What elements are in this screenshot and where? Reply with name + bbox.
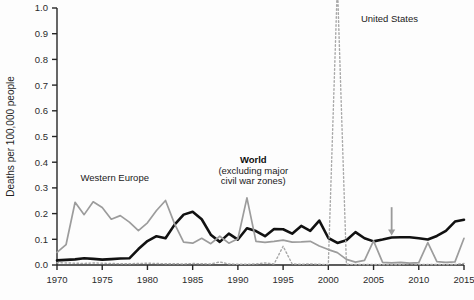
x-axis-tick-label: 2000 (318, 274, 339, 285)
western-europe-label: Western Europe (81, 172, 149, 183)
x-axis-tick-label: 2015 (453, 274, 474, 285)
deaths-per-100k-line-chart: 0.00.10.20.30.40.50.60.70.80.91.0 197019… (0, 0, 474, 300)
y-axis-title: Deaths per 100,000 people (5, 76, 16, 197)
x-axis-tick-label: 2010 (408, 274, 429, 285)
chart-background (0, 0, 474, 300)
y-axis-tick-label: 0.0 (35, 259, 48, 270)
x-axis-tick-label: 1985 (182, 274, 203, 285)
x-axis-tick-label: 1980 (137, 274, 158, 285)
y-axis-title-text: Deaths per 100,000 people (5, 76, 16, 197)
y-axis-tick-label: 0.1 (35, 234, 48, 245)
x-axis-tick-label: 2005 (363, 274, 384, 285)
chart-container: 0.00.10.20.30.40.50.60.70.80.91.0 197019… (0, 0, 474, 300)
x-axis-tick-label: 1975 (92, 274, 113, 285)
x-axis-tick-label: 1990 (227, 274, 248, 285)
x-axis-tick-label: 1995 (273, 274, 294, 285)
y-axis-tick-label: 0.7 (35, 80, 48, 91)
x-axis-tick-label: 1970 (46, 274, 67, 285)
y-axis-tick-label: 1.0 (35, 2, 48, 13)
y-axis-tick-label: 0.6 (35, 105, 48, 116)
y-axis-tick-label: 0.5 (35, 131, 48, 142)
united-states-label: United States (361, 13, 418, 24)
y-axis-tick-label: 0.9 (35, 28, 48, 39)
y-axis-tick-label: 0.2 (35, 208, 48, 219)
y-axis-tick-label: 0.8 (35, 54, 48, 65)
y-axis-tick-label: 0.3 (35, 182, 48, 193)
y-axis-tick-label: 0.4 (35, 157, 48, 168)
world-sublabel-2: civil war zones) (221, 175, 286, 186)
